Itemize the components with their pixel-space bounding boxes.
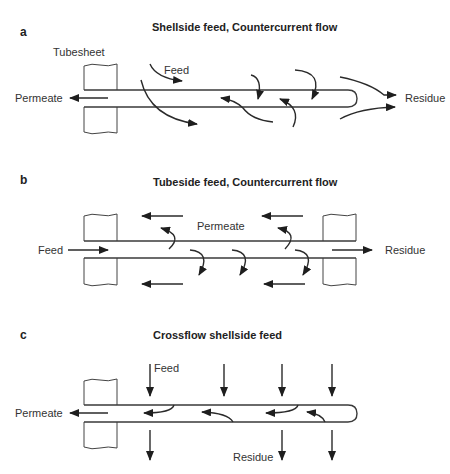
tubesheet-top-c (84, 379, 117, 405)
feed-label-a: Feed (164, 64, 189, 76)
permeation-arrow-a1 (251, 75, 259, 99)
residue-label-c: Residue (233, 451, 273, 463)
feed-label-b: Feed (38, 244, 63, 256)
residue-arrow-a1 (340, 77, 396, 95)
shell-flow-arrow-a (141, 80, 197, 124)
permeate-label-c: Permeate (15, 407, 63, 419)
permeate-flow-arrow-c3 (266, 405, 298, 413)
tubesheet-label: Tubesheet (53, 46, 105, 58)
panel-letter-b: b (20, 173, 27, 187)
panel-letter-c: c (20, 328, 27, 342)
permeation-down-arrow-b2 (232, 250, 245, 275)
tubesheet-top-a (84, 64, 117, 90)
permeation-down-arrow-b1 (190, 250, 204, 275)
permeation-down-arrow-b3 (295, 250, 308, 275)
tubesheet-left-top-b (84, 214, 117, 241)
panel-title-b: Tubeside feed, Countercurrent flow (153, 176, 338, 188)
permeate-label-b: Permeate (197, 220, 245, 232)
panel-a: a Shellside feed, Countercurrent flow Tu… (15, 21, 445, 134)
permeate-flow-arrow-c4 (307, 412, 325, 422)
residue-arrow-a2 (340, 107, 395, 119)
tubesheet-right-top-b (323, 214, 356, 241)
panel-letter-a: a (20, 25, 27, 39)
tubesheet-right-bottom-b (323, 258, 356, 286)
residue-label-b: Residue (385, 244, 425, 256)
permeate-flow-arrow-c1 (144, 405, 174, 413)
tubesheet-bottom-c (84, 422, 117, 449)
panel-title-c: Crossflow shellside feed (153, 329, 282, 341)
tubesheet-bottom-a (84, 107, 117, 134)
permeate-flow-arrow-c2 (202, 412, 233, 422)
panel-b: b Tubeside feed, Countercurrent flow Fee… (20, 173, 425, 286)
panel-c: c Crossflow shellside feed Permeate Feed… (15, 328, 357, 463)
membrane-flow-diagram: a Shellside feed, Countercurrent flow Tu… (0, 0, 450, 474)
permeate-label-a: Permeate (15, 92, 63, 104)
permeate-flow-arrow-a2 (280, 99, 296, 127)
tubesheet-left-bottom-b (84, 258, 117, 286)
permeation-arrow-a2 (295, 70, 316, 99)
feed-label-c: Feed (154, 362, 179, 374)
permeate-flow-arrow-a1 (221, 98, 273, 122)
permeation-up-arrow-b1 (161, 228, 175, 249)
permeation-up-arrow-b2 (278, 228, 291, 249)
residue-label-a: Residue (405, 92, 445, 104)
hollow-fiber-tube-a (84, 90, 357, 107)
panel-title-a: Shellside feed, Countercurrent flow (152, 21, 338, 33)
